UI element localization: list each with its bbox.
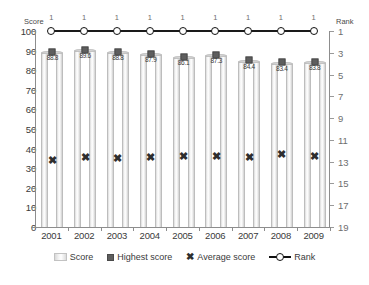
chart-container: Score Rank 0102030405060708090100 135791… bbox=[0, 0, 369, 285]
average-score-marker[interactable]: ✖ bbox=[277, 148, 286, 159]
bar[interactable] bbox=[155, 55, 162, 227]
rank-axis-tick-label: 13 bbox=[338, 158, 364, 167]
x-axis-tick-label: 2003 bbox=[107, 231, 127, 241]
bar-swatch-icon bbox=[54, 253, 67, 261]
bar[interactable] bbox=[89, 51, 96, 227]
score-data-label: 89.6 bbox=[79, 52, 90, 59]
rank-data-label: 1 bbox=[279, 14, 283, 22]
rank-axis-tick-label: 15 bbox=[338, 179, 364, 188]
square-marker-icon bbox=[107, 254, 114, 261]
legend-label: Score bbox=[70, 252, 94, 262]
rank-axis-tick-label: 7 bbox=[338, 92, 364, 101]
x-marker-icon: ✖ bbox=[186, 252, 194, 262]
average-score-marker[interactable]: ✖ bbox=[245, 152, 254, 163]
rank-data-label: 1 bbox=[312, 14, 316, 22]
score-data-label: 83.4 bbox=[276, 65, 287, 72]
average-score-marker[interactable]: ✖ bbox=[113, 153, 122, 164]
x-axis-tick-mark bbox=[264, 227, 265, 231]
bar[interactable] bbox=[107, 53, 114, 227]
score-data-label: 84.4 bbox=[243, 63, 254, 70]
rank-axis-tick-mark bbox=[330, 53, 334, 54]
rank-axis-tick-mark bbox=[330, 75, 334, 76]
right-axis-title: Rank bbox=[336, 18, 354, 26]
legend-item[interactable]: Highest score bbox=[107, 252, 172, 262]
x-axis-tick-label: 2007 bbox=[238, 231, 258, 241]
rank-point-marker[interactable] bbox=[211, 27, 219, 35]
x-axis-line bbox=[35, 227, 330, 228]
rank-data-label: 1 bbox=[82, 14, 86, 22]
rank-axis-tick-label: 9 bbox=[338, 114, 364, 123]
x-axis-tick-label: 2005 bbox=[172, 231, 192, 241]
x-axis-tick-mark bbox=[232, 227, 233, 231]
rank-axis-tick-mark bbox=[330, 96, 334, 97]
x-axis-tick-label: 2004 bbox=[140, 231, 160, 241]
bar[interactable] bbox=[74, 51, 81, 227]
rank-axis-tick-mark bbox=[330, 31, 334, 32]
x-axis-tick-label: 2009 bbox=[303, 231, 323, 241]
bar-group[interactable] bbox=[70, 31, 100, 227]
legend-item[interactable]: Rank bbox=[269, 252, 315, 262]
bar[interactable] bbox=[205, 56, 212, 227]
bar[interactable] bbox=[41, 53, 48, 227]
bar[interactable] bbox=[173, 58, 180, 227]
rank-point-marker[interactable] bbox=[179, 27, 187, 35]
bar[interactable] bbox=[140, 55, 147, 227]
bar[interactable] bbox=[122, 53, 129, 227]
rank-data-label: 1 bbox=[115, 14, 119, 22]
bar[interactable] bbox=[253, 62, 260, 227]
average-score-marker[interactable]: ✖ bbox=[179, 150, 188, 161]
x-axis-tick-mark bbox=[101, 227, 102, 231]
average-score-marker[interactable]: ✖ bbox=[81, 152, 90, 163]
rank-axis-tick-label: 17 bbox=[338, 201, 364, 210]
rank-axis-tick-mark bbox=[330, 118, 334, 119]
score-data-label: 87.3 bbox=[211, 57, 222, 64]
x-axis-tick-mark bbox=[166, 227, 167, 231]
rank-axis-tick-label: 3 bbox=[338, 49, 364, 58]
average-score-marker[interactable]: ✖ bbox=[146, 151, 155, 162]
rank-point-marker[interactable] bbox=[47, 27, 55, 35]
rank-point-marker[interactable] bbox=[146, 27, 154, 35]
x-axis-tick-label: 2006 bbox=[205, 231, 225, 241]
bar[interactable] bbox=[319, 63, 326, 227]
rank-axis-tick-mark bbox=[330, 205, 334, 206]
x-axis-tick-mark bbox=[68, 227, 69, 231]
x-axis-tick-mark bbox=[330, 227, 331, 231]
score-data-label: 88.8 bbox=[112, 54, 123, 61]
bar[interactable] bbox=[304, 63, 311, 227]
bar[interactable] bbox=[56, 53, 63, 227]
bar[interactable] bbox=[286, 64, 293, 227]
rank-data-label: 1 bbox=[148, 14, 152, 22]
legend-item[interactable]: ✖Average score bbox=[186, 252, 255, 262]
rank-point-marker[interactable] bbox=[244, 27, 252, 35]
rank-axis-tick-label: 5 bbox=[338, 71, 364, 80]
average-score-marker[interactable]: ✖ bbox=[310, 150, 319, 161]
plot-area: 88.889.688.887.986.187.384.483.483.8 ✖✖✖… bbox=[35, 31, 330, 227]
bar[interactable] bbox=[238, 62, 245, 227]
x-axis-tick-label: 2002 bbox=[74, 231, 94, 241]
rank-point-marker[interactable] bbox=[310, 27, 318, 35]
left-axis-title: Score bbox=[24, 18, 44, 26]
rank-data-label: 1 bbox=[49, 14, 53, 22]
rank-axis-tick-label: 11 bbox=[338, 136, 364, 145]
rank-axis-tick-mark bbox=[330, 183, 334, 184]
line-circle-marker-icon bbox=[269, 253, 291, 261]
rank-data-label: 1 bbox=[246, 14, 250, 22]
score-data-label: 87.9 bbox=[145, 56, 156, 63]
score-data-label: 86.1 bbox=[178, 59, 189, 66]
bar[interactable] bbox=[220, 56, 227, 227]
rank-point-marker[interactable] bbox=[277, 27, 285, 35]
average-score-marker[interactable]: ✖ bbox=[48, 154, 57, 165]
x-axis-tick-label: 2001 bbox=[41, 231, 61, 241]
bar[interactable] bbox=[271, 64, 278, 227]
legend-label: Rank bbox=[294, 252, 315, 262]
chart-legend: ScoreHighest score✖Average scoreRank bbox=[0, 252, 369, 262]
average-score-marker[interactable]: ✖ bbox=[212, 151, 221, 162]
x-axis-tick-mark bbox=[297, 227, 298, 231]
bar[interactable] bbox=[188, 58, 195, 227]
rank-point-marker[interactable] bbox=[80, 27, 88, 35]
score-data-label: 88.8 bbox=[47, 54, 58, 61]
legend-item[interactable]: Score bbox=[54, 252, 94, 262]
score-data-label: 83.8 bbox=[309, 64, 320, 71]
rank-point-marker[interactable] bbox=[113, 27, 121, 35]
rank-data-label: 1 bbox=[213, 14, 217, 22]
